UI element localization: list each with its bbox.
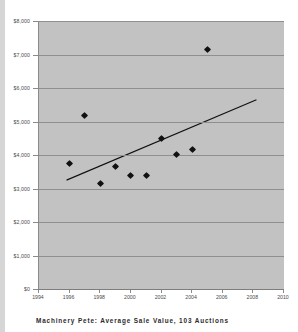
y-axis-tick [33, 256, 38, 257]
x-axis-label: 1994 [26, 294, 50, 301]
x-axis-tick [252, 290, 253, 293]
x-axis-tick [191, 290, 192, 293]
x-axis-label: 2010 [271, 294, 295, 301]
x-axis-tick [130, 290, 131, 293]
y-axis-tick [33, 155, 38, 156]
x-axis-label: 2000 [118, 294, 142, 301]
gridline [39, 222, 284, 223]
y-axis-label: $8,000 [14, 18, 30, 24]
plot-area [38, 21, 284, 289]
y-axis-label: $7,000 [14, 52, 30, 58]
y-axis-label: $5,000 [14, 119, 30, 125]
x-axis-tick [222, 290, 223, 293]
y-axis-tick [33, 88, 38, 89]
y-axis-tick [33, 21, 38, 22]
x-axis-tick [69, 290, 70, 293]
y-axis-label: $4,000 [14, 152, 30, 158]
x-axis-label: 2002 [149, 294, 173, 301]
y-axis-label: $1,000 [14, 253, 30, 259]
x-axis-label: 2004 [179, 294, 203, 301]
y-axis-label: $3,000 [14, 186, 30, 192]
gridline [39, 189, 284, 190]
gridline [39, 88, 284, 89]
y-axis-tick [33, 55, 38, 56]
x-axis-label: 2006 [210, 294, 234, 301]
x-axis-tick [161, 290, 162, 293]
gridline [39, 55, 284, 56]
x-axis-label: 1996 [57, 294, 81, 301]
y-axis-tick [33, 122, 38, 123]
gridline [39, 122, 284, 123]
chart-caption: Machinery Pete: Average Sale Value, 103 … [36, 317, 229, 324]
gridline [39, 256, 284, 257]
x-axis-label: 2008 [240, 294, 264, 301]
y-axis-label: $0 [24, 286, 30, 292]
chart-figure: $0$1,000$2,000$3,000$4,000$5,000$6,000$7… [0, 0, 298, 332]
gridline [39, 155, 284, 156]
x-axis-tick [99, 290, 100, 293]
x-axis-tick [283, 290, 284, 293]
y-axis-tick [33, 189, 38, 190]
y-axis-label: $6,000 [14, 85, 30, 91]
gridline [39, 21, 284, 22]
y-axis-tick [33, 222, 38, 223]
y-axis-label: $2,000 [14, 219, 30, 225]
x-axis-label: 1998 [87, 294, 111, 301]
x-axis-tick [38, 290, 39, 293]
